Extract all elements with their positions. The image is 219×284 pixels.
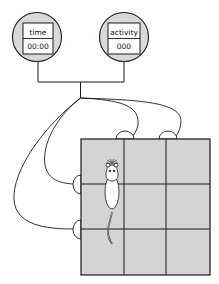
- sensor-top-2: [159, 131, 177, 139]
- sensor-left-1: [73, 175, 81, 194]
- time-value: 00:00: [27, 42, 49, 51]
- time-label: time: [30, 28, 47, 37]
- display-connector: [38, 62, 124, 98]
- time-display: time 00:00: [13, 13, 62, 62]
- cable-left-2: [14, 98, 81, 229]
- activity-value: 000: [117, 42, 132, 51]
- sensor-left-2: [73, 220, 81, 239]
- rat-eye-left: [109, 170, 111, 172]
- cable-left-1: [45, 98, 81, 184]
- rat-eye-right: [113, 170, 115, 172]
- activity-monitor-diagram: time 00:00 activity 000: [0, 0, 219, 284]
- activity-label: activity: [110, 28, 138, 37]
- display-bus-line: [38, 62, 124, 82]
- arena-floor: [81, 139, 210, 275]
- activity-display: activity 000: [100, 13, 149, 62]
- arena: [81, 139, 210, 275]
- sensor-top-1: [116, 131, 134, 139]
- rat-head: [106, 165, 118, 181]
